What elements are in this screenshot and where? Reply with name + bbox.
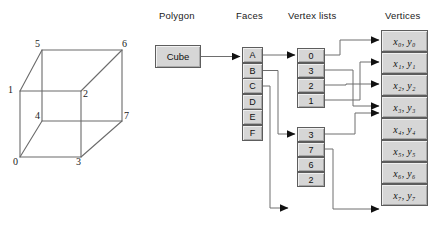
vertex-cell-2[interactable]: x₂, y₂ (381, 74, 428, 96)
vertex-list-a-cell-0[interactable]: 0 (297, 48, 325, 63)
vertex-cell-5[interactable]: x₅, y₅ (381, 140, 428, 162)
vertex-cell-3[interactable]: x₃, y₃ (381, 96, 428, 118)
vertex-list-b-cell-0[interactable]: 3 (297, 127, 325, 142)
vertex-cell-7-label: x₇, y₇ (393, 190, 416, 201)
face-cell-b[interactable]: B (242, 63, 263, 79)
face-cell-f[interactable]: F (242, 125, 263, 141)
vertex-cell-4[interactable]: x₄, y₄ (381, 118, 428, 140)
vertex-list-a-cell-3[interactable]: 1 (297, 93, 325, 108)
vertex-cell-4-label: x₄, y₄ (393, 124, 416, 135)
face-cell-a[interactable]: A (242, 47, 263, 63)
vertex-cell-0-label: x₀, y₀ (393, 36, 416, 47)
vertex-list-a-cell-2[interactable]: 2 (297, 78, 325, 93)
vertex-cell-7[interactable]: x₇, y₇ (381, 184, 428, 206)
vertex-cell-1-label: x₁, y₁ (393, 58, 416, 69)
face-cell-c[interactable]: C (242, 78, 263, 94)
vertex-cell-3-label: x₃, y₃ (393, 102, 416, 113)
vertex-cell-0[interactable]: x₀, y₀ (381, 30, 428, 52)
vertex-list-b-cell-2[interactable]: 6 (297, 157, 325, 172)
edge-face-b-to-list-b (263, 71, 295, 135)
vertex-cell-2-label: x₂, y₂ (393, 80, 416, 91)
vertex-list-b-cell-1[interactable]: 7 (297, 142, 325, 157)
vertex-cell-6[interactable]: x₆, y₆ (381, 162, 428, 184)
edge-list-a-0-to-vertex-0 (325, 40, 379, 55)
edge-list-b-1-to-vertex-7 (325, 149, 379, 209)
edge-face-c-to-next (263, 86, 288, 208)
polygon-node-cube[interactable]: Cube (155, 45, 201, 68)
vertex-cell-5-label: x₅, y₅ (393, 146, 416, 157)
edge-list-a-2-to-vertex-2 (325, 84, 379, 85)
vertex-cell-6-label: x₆, y₆ (393, 168, 416, 179)
edge-list-a-3-to-vertex-1 (325, 62, 379, 100)
vertex-list-a-cell-1[interactable]: 3 (297, 63, 325, 78)
vertex-cell-1[interactable]: x₁, y₁ (381, 52, 428, 74)
face-cell-e[interactable]: E (242, 109, 263, 125)
edge-list-b-0-to-vertex-3 (325, 113, 379, 134)
connector-layer (0, 0, 435, 232)
face-cell-d[interactable]: D (242, 94, 263, 110)
diagram-canvas: 0 1 2 3 4 5 6 7 Polygon Faces Vertex lis… (0, 0, 435, 232)
vertex-list-b-cell-3[interactable]: 2 (297, 172, 325, 187)
edge-list-a-1-to-vertex-3 (325, 70, 379, 106)
